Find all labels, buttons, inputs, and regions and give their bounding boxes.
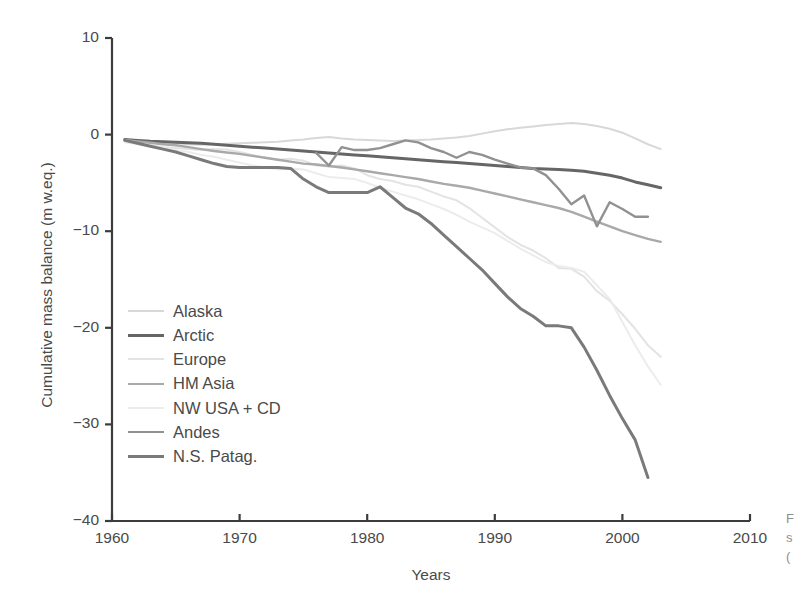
y-axis-title: Cumulative mass balance (m w.eq.) [38,120,56,450]
legend-label: Alaska [173,303,223,320]
y-tick-label: −10 [43,221,99,239]
caption-line-1: F [786,509,809,528]
x-tick-label: 1970 [205,529,275,547]
y-tick-label: 10 [43,28,99,46]
y-tick-label: −30 [43,414,99,432]
legend-swatch-line-icon [128,455,164,458]
x-tick-label: 1990 [460,529,530,547]
legend-item[interactable]: Andes [128,420,343,444]
chart-legend: AlaskaArcticEuropeHM AsiaNW USA + CDAnde… [128,299,343,468]
caption-line-3: ( [786,547,809,566]
legend-swatch-line-icon [128,334,164,337]
legend-label: HM Asia [173,375,234,392]
x-tick-label: 1960 [77,529,147,547]
caption-fragment: F s ( [786,509,809,566]
legend-swatch-line-icon [128,407,164,409]
x-tick-label: 1980 [332,529,402,547]
legend-label: Andes [173,424,220,441]
legend-swatch-line-icon [128,358,164,360]
legend-swatch-line-icon [128,383,164,385]
x-tick-label: 2010 [715,529,785,547]
legend-swatch-line-icon [128,310,164,312]
y-tick-label: −20 [43,318,99,336]
legend-item[interactable]: Europe [128,347,343,371]
legend-label: NW USA + CD [173,400,281,417]
legend-label: Arctic [173,327,214,344]
y-tick-label: −40 [43,511,99,529]
chart-canvas [0,0,809,614]
legend-swatch-line-icon [128,431,164,433]
legend-item[interactable]: NW USA + CD [128,396,343,420]
legend-item[interactable]: Alaska [128,299,343,323]
x-axis-title: Years [381,566,481,584]
caption-line-2: s [786,528,809,547]
y-tick-label: 0 [43,125,99,143]
legend-label: Europe [173,351,226,368]
legend-label: N.S. Patag. [173,448,257,465]
legend-item[interactable]: HM Asia [128,372,343,396]
legend-item[interactable]: N.S. Patag. [128,444,343,468]
legend-item[interactable]: Arctic [128,323,343,347]
x-tick-label: 2000 [587,529,657,547]
figure-container: Cumulative mass balance (m w.eq.) Years … [0,0,809,614]
